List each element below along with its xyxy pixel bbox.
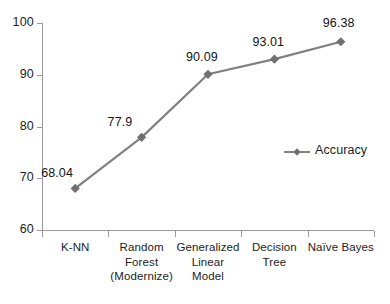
data-point-label: 77.9 — [108, 115, 133, 129]
x-axis-line — [42, 230, 374, 231]
data-point-label: 90.09 — [186, 50, 218, 64]
x-axis-tick — [175, 231, 176, 237]
y-axis-tick — [37, 127, 42, 128]
y-axis-tick-label: 90 — [0, 67, 34, 81]
y-axis-tick — [37, 23, 42, 24]
data-point-marker — [137, 133, 146, 142]
y-axis-tick — [37, 75, 42, 76]
x-axis-category-label: Naïve Bayes — [308, 240, 374, 255]
data-point-marker — [203, 70, 212, 79]
chart-legend: Accuracy — [283, 143, 367, 157]
data-point-label: 68.04 — [41, 166, 73, 180]
accuracy-line-chart: 60708090100 68.0477.990.0993.0196.38 K-N… — [0, 0, 390, 304]
x-axis-category-label: Generalized Linear Model — [175, 240, 241, 284]
data-point-label: 93.01 — [252, 35, 284, 49]
data-point-marker — [336, 37, 345, 46]
y-axis-tick-label: 60 — [0, 222, 34, 236]
data-point-label: 96.38 — [323, 16, 355, 30]
y-axis-tick-label: 100 — [0, 15, 34, 29]
x-axis-tick — [308, 231, 309, 237]
x-axis-tick — [108, 231, 109, 237]
y-axis-line — [42, 23, 43, 231]
y-axis-tick-label: 80 — [0, 119, 34, 133]
x-axis-category-label: K-NN — [42, 240, 108, 255]
x-axis-category-label: Random Forest (Modernize) — [108, 240, 174, 284]
line-diamond-marker-icon — [283, 144, 311, 156]
x-axis-tick — [374, 231, 375, 237]
x-axis-tick — [241, 231, 242, 237]
x-axis-tick — [42, 231, 43, 237]
y-axis-tick-label: 70 — [0, 170, 34, 184]
data-point-marker — [71, 184, 80, 193]
legend-label-accuracy: Accuracy — [315, 143, 367, 157]
x-axis-category-label: Decision Tree — [241, 240, 307, 269]
data-point-marker — [270, 55, 279, 64]
